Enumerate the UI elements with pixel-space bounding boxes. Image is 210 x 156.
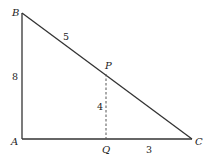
length-label-ab: 8 [12, 71, 18, 82]
length-label-qc: 3 [146, 144, 152, 155]
vertex-label-p: P [104, 60, 112, 71]
vertex-label-c: C [195, 136, 203, 147]
triangle-diagram: B A C P Q 5 8 4 3 [0, 0, 210, 156]
vertex-label-b: B [11, 7, 19, 18]
length-label-bp: 5 [63, 31, 69, 42]
length-label-pq: 4 [97, 101, 103, 112]
vertex-label-a: A [10, 136, 18, 147]
vertex-label-q: Q [102, 144, 110, 155]
segment-bc [22, 13, 192, 139]
